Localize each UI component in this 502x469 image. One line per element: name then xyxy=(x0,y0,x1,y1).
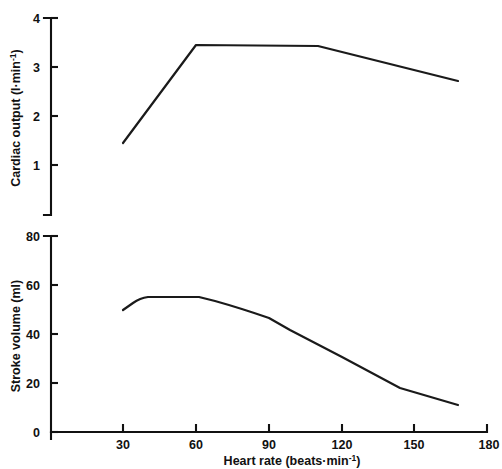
top-ytick-label-1: 1 xyxy=(33,159,40,173)
bottom-xtick-label-60: 60 xyxy=(189,438,203,452)
bottom-y-axis-title-text: Stroke volume (ml) xyxy=(9,280,23,393)
bottom-ytick-label-40: 40 xyxy=(26,328,40,342)
x-axis-title-prefix: Heart rate (beats·min xyxy=(224,454,349,468)
bottom-xtick-label-30: 30 xyxy=(116,438,130,452)
top-y-axis-title-suffix: ) xyxy=(9,49,23,53)
top-panel: 4 3 2 1 Cardiac output (l·min-1) xyxy=(8,12,458,215)
top-y-axis-title-prefix: Cardiac output (l·min xyxy=(9,61,23,187)
bottom-xtick-label-120: 120 xyxy=(332,438,353,452)
bottom-ytick-label-80: 80 xyxy=(26,230,40,244)
top-ytick-label-2: 2 xyxy=(33,110,40,124)
bottom-ytick-label-20: 20 xyxy=(26,377,40,391)
bottom-xtick-label-150: 150 xyxy=(404,438,425,452)
svg-text:Cardiac output (l·min-1): Cardiac output (l·min-1) xyxy=(8,49,23,186)
top-y-axis-title: Cardiac output (l·min-1) xyxy=(8,49,23,186)
x-axis-title: Heart rate (beats·min-1) xyxy=(224,453,361,468)
bottom-xtick-label-180: 180 xyxy=(479,438,500,452)
bottom-y-axis-line xyxy=(44,236,51,432)
bottom-panel: 80 60 40 20 0 30 60 90 120 150 180 Strok… xyxy=(9,230,499,468)
x-axis-title-suffix: ) xyxy=(356,454,360,468)
dual-line-chart: 4 3 2 1 Cardiac output (l·min-1) xyxy=(0,0,502,469)
stroke-volume-line xyxy=(123,297,458,405)
bottom-ytick-label-60: 60 xyxy=(26,279,40,293)
top-ytick-label-4: 4 xyxy=(33,12,40,26)
figure-container: 4 3 2 1 Cardiac output (l·min-1) xyxy=(0,0,502,469)
cardiac-output-line xyxy=(123,45,458,143)
bottom-y-axis-title: Stroke volume (ml) xyxy=(9,280,23,393)
top-y-axis-line xyxy=(44,18,51,215)
bottom-ytick-label-0: 0 xyxy=(33,426,40,440)
top-ytick-label-3: 3 xyxy=(33,61,40,75)
bottom-xtick-label-90: 90 xyxy=(262,438,276,452)
